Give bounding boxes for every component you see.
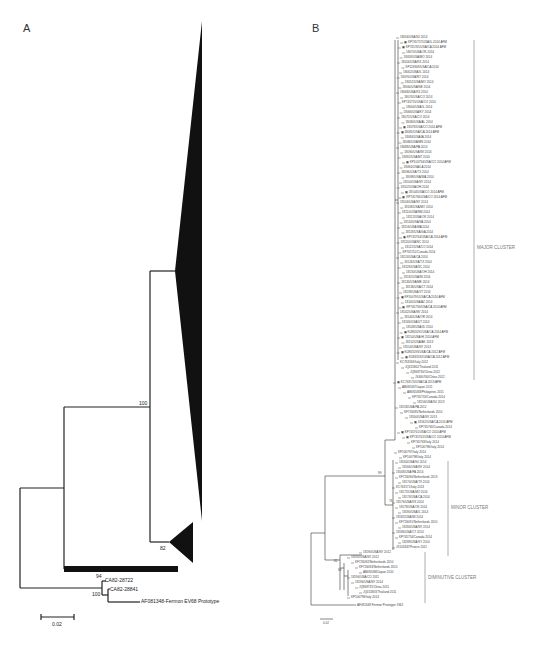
tip-label: ▣ KP745757/USA/IL 2014 AFM (404, 41, 447, 44)
tip-label: KP100799/Italy 2014 (351, 596, 379, 599)
diminutive-cluster-label: DIMINUTIVE CLUSTER (428, 575, 476, 580)
tip-label: KF726092/Netherlands 2010 (355, 561, 393, 564)
tip-label: 18086/USA/MN 2014 (402, 141, 430, 144)
tip-label: ▣ 18150/USA/HI 2014 AFM (401, 336, 439, 339)
tip-label: 18180/USA/IL 2014 (402, 511, 428, 514)
tip-label: ▣ KP745762/USA/CO 2014 AFM (406, 436, 451, 439)
tip-label: 18114/USA/VA 2014 (404, 221, 431, 224)
tip-label: KP745755/USA/CO 2014 (402, 101, 436, 104)
tip-label: 18062/USA/IL 2014 (403, 71, 429, 74)
tip-label: JQ868731/China 2011 (359, 586, 389, 589)
tip-label: 18054/USA/KS 2014 (401, 61, 429, 64)
tip-label: ▣ KP745765/USA/CA 2014 AFM (402, 46, 446, 49)
tip-label: 18052/USA/MO 2014 (405, 81, 434, 84)
tip-label: 18142/USA/NV 2014 (400, 311, 428, 314)
bootstrap-b2: 76 (389, 499, 392, 503)
tip-label: 18056/USA/NJ 2014 (400, 36, 427, 39)
tip-label: 18110/USA/NM 2014 (402, 211, 430, 214)
tip-label: KF726090/Netherlands 2013 (399, 476, 437, 479)
tip-label: ▣ KC763170/USA/CA 2013 AFM (397, 381, 441, 384)
tip-label: AB692483/Philippines 2011 (407, 391, 444, 394)
tip-label: KP745754/Canada 2014 (399, 536, 432, 539)
tip-label: KC763171/Italy 2013 (396, 486, 424, 489)
tip-label: 18166/USA/NY 2014 (402, 466, 430, 469)
tip-label: ▣ KP745761/USA/CO 2014 AFM (401, 431, 446, 434)
tip-label: ▣ KU865591/USA/CA 2014 AFM (404, 331, 448, 334)
tip-label: 18088/USA/PA 2014 (400, 146, 427, 149)
tip-label: 18146/USA/UT 2014 (402, 321, 430, 324)
tip-label: 18126/USA/TX 2014 (404, 261, 432, 264)
tip-label: ▣ KU865593/USA/CA 2012 AFM (401, 351, 445, 354)
tip-label: JQ868730/China 2012 (410, 371, 440, 374)
tip-label: 18178/USA/OK 2014 (399, 506, 427, 509)
tip-label: 18176/USA/KS 2014 (396, 501, 424, 504)
tip-label: 18134/USA/ME 2014 (401, 281, 429, 284)
scale-bar-label-b: 0.02 (323, 621, 329, 625)
tip-label: 18102/USA/OH 2014 (401, 186, 429, 189)
panel-b-tree (0, 0, 536, 645)
tip-label: KF726093/Netherlands 2010 (359, 566, 397, 569)
tip-label: 18122/USA/CO 2014 (405, 246, 433, 249)
tip-label: KP745753/Canada 2014 (412, 396, 445, 399)
tip-label: JX101847/France 2011 (396, 546, 427, 549)
tip-label: 18140/USA/AZ 2014 (405, 301, 433, 304)
tip-label: 18186/USA/CT 2014 (396, 531, 424, 534)
tip-label: 18184/USA/NY 2014 (402, 526, 430, 529)
tip-label: 18066/USA/KY 2014 (404, 111, 432, 114)
tip-label: 18182/USA/MI 2014 (396, 516, 423, 519)
tip-label: 18068/USA/KS 2014 (400, 91, 428, 94)
bootstrap-b4: 94 (338, 568, 341, 572)
tip-label: 18084/USA/IA 2014 (405, 136, 431, 139)
tip-label: 18172/USA/MO 2014 (399, 491, 428, 494)
tip-label: 18168/USA/PA 2014 (396, 471, 423, 474)
tip-label: 18064/USA/IL 2014 (406, 106, 432, 109)
tip-label: 18070/USA/OK 2014 (406, 51, 434, 54)
tip-label: ▣ KP745766/USA/CO 2014 AFM (402, 196, 447, 199)
tip-label: ▣ KP100795/USA/CA 2014 AFM (401, 296, 445, 299)
tip-label: 18060/USA/NE 2014 (402, 86, 430, 89)
tip-label: 18156/USA/NJ 2013 (417, 401, 444, 404)
outgroup-label: AF081348 Fermon Prototype 1962 (357, 603, 403, 607)
tip-label: 18072/USA/CO 2014 (401, 116, 429, 119)
tip-label: KC763169/Italy 2012 (400, 361, 428, 364)
tip-label: 18192/USA/NY 2012 (351, 556, 379, 559)
tip-label: 18174/USA/CA 2014 (402, 496, 430, 499)
tip-label: 18112/USA/OK 2014 (406, 216, 434, 219)
tip-label: 18108/USA/MO 2014 (404, 206, 433, 209)
tip-label: AB692468/Japan 2010 (363, 571, 394, 574)
tip-label: 18096/USA/TX 2014 (401, 171, 429, 174)
tip-label: ▣ KU865592/USA/CA 2012 AFM (405, 356, 449, 359)
tip-label: 18194/USA/CO 2011 (351, 576, 379, 579)
tip-label: 18144/USA/OR 2014 (404, 316, 432, 319)
tip-label: ▣ 18104/USA/CO 2014 AFM (405, 191, 444, 194)
tip-label: KP745752/Canada 2014 (402, 251, 435, 254)
bootstrap-b3: 82 (334, 559, 337, 563)
tip-label: 18130/USA/OH 2014 (406, 271, 434, 274)
tip-label: ▣ KP745764/USA/CA 2014 AFM (403, 236, 447, 239)
tip-label: 18106/USA/NY 2014 (400, 201, 428, 204)
tip-label: 18152/USA/AK 2013 (405, 341, 433, 344)
tip-label: KP745760/Canada 2014 (419, 426, 452, 429)
tip-label: 18170/USA/TX 2014 (402, 481, 430, 484)
tip-label: 18164/USA/NJ 2014 (399, 461, 426, 464)
tip-label: ▣ 18162/USA/CA 2014 AFM (414, 421, 453, 424)
tip-label: ▣ KP745759/USA/CA 2014 AFM (402, 306, 446, 309)
tip-label: 18116/USA/MA 2014 (401, 226, 429, 229)
tip-label: JQ411863/Thailand 2011 (363, 591, 396, 594)
minor-cluster-label: MINOR CLUSTER (451, 505, 488, 510)
bootstrap-b1: 99 (378, 471, 381, 475)
tip-label: 18136/USA/CT 2014 (405, 286, 433, 289)
tip-label: 18160/USA/NY 2013 (409, 416, 437, 419)
tip-label: 18188/USA/KY 2014 (402, 541, 430, 544)
tip-label: KP745763/Italy 2014 (411, 441, 439, 444)
tip-label: 18118/USA/GA 2014 (405, 231, 433, 234)
tip-label: 18196/USA/NY 2014 (355, 581, 383, 584)
tip-label: 18158/USA/PA 2012 (399, 406, 426, 409)
tip-label: 18076/USA/NY 2014 (401, 76, 429, 79)
tip-label: KF726091/Netherlands 2010 (399, 521, 437, 524)
tip-label: ▣ KP100794/USA/CO 2014 AFM (406, 161, 451, 164)
tip-label: 18154/USA/NY 2013 (403, 346, 431, 349)
tip-label: KP100797/Italy 2014 (398, 451, 426, 454)
tip-label: JQ411862/Thailand 2011 (405, 366, 438, 369)
tip-label: 18090/USA/WI 2014 (404, 151, 431, 154)
